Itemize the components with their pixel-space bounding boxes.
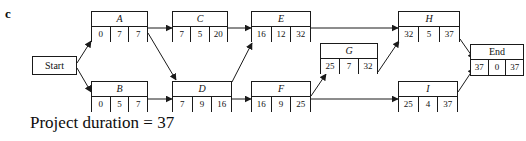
- node-f[interactable]: F 16 9 25: [251, 81, 311, 112]
- node-g-earliest-start: 25: [321, 59, 340, 74]
- node-i-label: I: [399, 82, 457, 97]
- node-e-duration: 12: [272, 27, 292, 42]
- node-d-latest-finish: 16: [212, 97, 231, 112]
- node-b-cells: 0 5 7: [92, 97, 147, 112]
- node-i-cells: 25 4 37: [399, 97, 457, 112]
- node-g[interactable]: G 25 7 32: [320, 43, 378, 74]
- node-i-duration: 4: [419, 97, 439, 112]
- node-e[interactable]: E 16 12 32: [251, 11, 311, 42]
- node-i[interactable]: I 25 4 37: [398, 81, 458, 112]
- node-start-label: Start: [45, 60, 64, 71]
- node-c-label: C: [173, 12, 227, 27]
- node-a[interactable]: A 0 7 7: [91, 11, 148, 42]
- node-f-cells: 16 9 25: [252, 97, 310, 112]
- node-b-earliest-start: 0: [92, 97, 111, 112]
- project-duration-caption: Project duration = 37: [30, 113, 174, 133]
- node-i-earliest-start: 25: [399, 97, 419, 112]
- panel-label: c: [5, 6, 11, 22]
- node-a-latest-finish: 7: [129, 27, 147, 42]
- node-end[interactable]: End 37 0 37: [470, 44, 524, 76]
- node-end-label: End: [471, 45, 523, 60]
- node-d-label: D: [173, 82, 231, 97]
- node-f-earliest-start: 16: [252, 97, 272, 112]
- node-f-duration: 9: [272, 97, 292, 112]
- node-h-label: H: [399, 12, 459, 27]
- node-c-latest-finish: 20: [210, 27, 227, 42]
- node-h-earliest-start: 32: [399, 27, 419, 42]
- node-end-latest-finish: 37: [506, 60, 523, 75]
- node-f-label: F: [252, 82, 310, 97]
- node-e-label: E: [252, 12, 310, 27]
- node-end-duration: 0: [489, 60, 507, 75]
- node-start[interactable]: Start: [32, 56, 77, 75]
- node-c-earliest-start: 7: [173, 27, 191, 42]
- node-e-earliest-start: 16: [252, 27, 272, 42]
- node-c[interactable]: C 7 5 20: [172, 11, 228, 42]
- network-diagram-figure: c Start A 0: [0, 0, 526, 141]
- node-d[interactable]: D 7 9 16: [172, 81, 232, 112]
- node-d-duration: 9: [193, 97, 213, 112]
- edge-start-b: [77, 68, 91, 92]
- node-a-cells: 0 7 7: [92, 27, 147, 42]
- node-i-latest-finish: 37: [438, 97, 457, 112]
- edge-f-g: [311, 74, 326, 96]
- node-e-cells: 16 12 32: [252, 27, 310, 42]
- node-a-duration: 7: [111, 27, 130, 42]
- node-g-label: G: [321, 44, 377, 59]
- node-e-latest-finish: 32: [291, 27, 310, 42]
- node-b-duration: 5: [111, 97, 130, 112]
- node-h[interactable]: H 32 5 37: [398, 11, 460, 42]
- node-h-cells: 32 5 37: [399, 27, 459, 42]
- edge-d-e: [232, 43, 252, 82]
- edge-g-h: [378, 41, 399, 72]
- node-d-cells: 7 9 16: [173, 97, 231, 112]
- node-c-duration: 5: [191, 27, 209, 42]
- node-h-latest-finish: 37: [440, 27, 459, 42]
- node-g-duration: 7: [340, 59, 359, 74]
- node-c-cells: 7 5 20: [173, 27, 227, 42]
- node-a-earliest-start: 0: [92, 27, 111, 42]
- node-g-cells: 25 7 32: [321, 59, 377, 74]
- node-b-label: B: [92, 82, 147, 97]
- node-d-earliest-start: 7: [173, 97, 193, 112]
- node-a-label: A: [92, 12, 147, 27]
- node-b-latest-finish: 7: [129, 97, 147, 112]
- node-end-cells: 37 0 37: [471, 60, 523, 75]
- node-g-latest-finish: 32: [359, 59, 377, 74]
- node-f-latest-finish: 25: [291, 97, 310, 112]
- edge-start-a: [77, 41, 91, 63]
- node-h-duration: 5: [419, 27, 439, 42]
- node-b[interactable]: B 0 5 7: [91, 81, 148, 112]
- node-end-earliest-start: 37: [471, 60, 489, 75]
